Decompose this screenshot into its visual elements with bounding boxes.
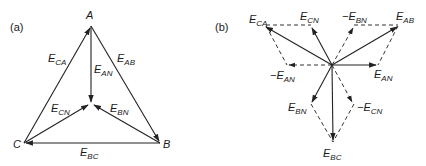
label-e-ca: ECA	[249, 13, 267, 28]
panel-b: (b) ECA ECN −EBN EAB −EAN EAN EBN −ECN E…	[215, 10, 415, 162]
label-e-cn: ECN	[51, 102, 70, 117]
label-neg-e-cn: −ECN	[357, 101, 383, 116]
phasor-diagram: (a) A B C ECA EAB EBC EAN EBN ECN (b)	[0, 0, 426, 166]
panel-b-tag: (b)	[215, 21, 228, 33]
node-b-label: B	[163, 138, 170, 150]
vector-neg-e-cn	[332, 65, 352, 102]
vector-e-ca	[24, 28, 90, 143]
label-e-an: EAN	[374, 68, 393, 83]
label-e-bn: EBN	[288, 101, 307, 116]
label-e-an: EAN	[94, 63, 113, 78]
construction-line	[311, 104, 333, 142]
label-neg-e-an: −EAN	[270, 69, 295, 84]
label-e-bc: EBC	[80, 146, 99, 161]
vector-e-bn	[312, 65, 332, 102]
label-e-ab: EAB	[117, 52, 136, 67]
vector-e-bc	[332, 65, 333, 140]
label-e-bn: EBN	[110, 102, 129, 117]
vector-e-ab	[91, 26, 159, 141]
construction-line	[266, 26, 287, 65]
panel-a: (a) A B C ECA EAB EBC EAN EBN ECN	[10, 9, 170, 161]
node-a-label: A	[85, 9, 93, 21]
label-neg-e-bn: −EBN	[342, 10, 367, 25]
label-e-cn: ECN	[300, 10, 319, 25]
label-e-ca: ECA	[48, 52, 66, 67]
construction-line	[333, 104, 354, 142]
panel-a-tag: (a)	[10, 21, 23, 33]
node-c-label: C	[13, 138, 21, 150]
label-e-ab: EAB	[396, 10, 415, 25]
label-e-bc: EBC	[323, 147, 342, 162]
